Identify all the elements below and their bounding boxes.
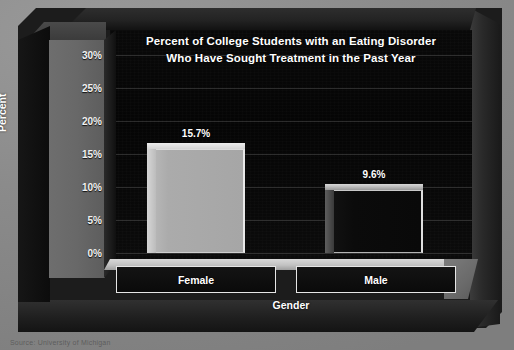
y-axis-tick-label: 25% [51,83,105,94]
category-label-male[interactable]: Male [296,266,456,293]
bar-side-face [147,149,156,253]
bar-value-label: 15.7% [182,128,210,139]
bar-female[interactable] [147,143,245,253]
chart-title: Percent of College Students with an Eati… [110,33,472,67]
y-axis-wall: 0%5%10%15%20%25%30% [49,40,105,278]
chart-title-line-2: Who Have Sought Treatment in the Past Ye… [110,50,472,67]
chart-title-line-1: Percent of College Students with an Eati… [110,33,472,50]
category-label-female[interactable]: Female [116,266,276,293]
bar-front-face [325,190,423,253]
axis-wall-outer-edge [18,26,50,302]
y-axis-title: Percent [0,93,8,132]
source-note: Source: University of Michigan [10,339,310,350]
x-axis-title: Gender [110,299,472,311]
gridline [110,88,472,89]
gridline [110,253,472,254]
y-axis-tick-label: 0% [51,248,105,259]
y-axis-tick-label: 5% [51,215,105,226]
chart-slab-right-bevel [470,8,500,328]
y-axis-tick-label: 15% [51,149,105,160]
y-axis-tick-label: 30% [51,50,105,61]
chart-top-deck [64,8,476,30]
y-axis-tick-label: 10% [51,182,105,193]
bar-value-label: 9.6% [363,169,386,180]
bar-front-face [147,149,245,253]
axis-wall-bevel [104,30,116,278]
bar-side-face [325,190,334,253]
bar-male[interactable] [325,184,423,253]
y-axis-tick-label: 20% [51,116,105,127]
chart-screenshot: 0%5%10%15%20%25%30% Percent Percent of C… [0,0,514,350]
gridline [110,121,472,122]
